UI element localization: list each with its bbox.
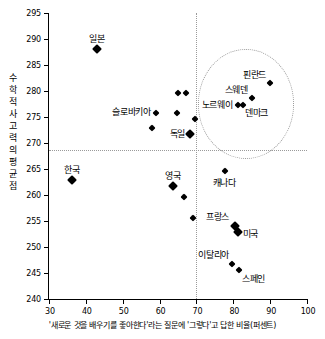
y-axis-tick-label: 285 (26, 62, 41, 70)
point-label: 덴마크 (245, 108, 268, 117)
x-axis-tick: 40 (86, 299, 87, 304)
x-axis-tick: 100 (307, 299, 308, 304)
x-axis-tick: 30 (49, 299, 50, 304)
point-label: 이탈리아 (198, 250, 229, 259)
y-axis-tick-label: 290 (26, 36, 41, 44)
x-axis-tick-label: 70 (193, 308, 203, 316)
y-axis-tick: 275 (44, 117, 49, 118)
x-axis-tick: 80 (233, 299, 234, 304)
point-label: 노르웨이 (202, 100, 233, 109)
x-axis-tick: 50 (123, 299, 124, 304)
y-axis-tick-label: 275 (26, 114, 41, 122)
x-axis-caption: '새로운 것을 배우기를 좋아한다'라는 질문에 '그렇다'고 답한 비율(퍼센… (0, 321, 325, 331)
point-label: 핀란드 (243, 71, 266, 80)
point-label: 한국 (64, 165, 79, 174)
point-label: 독일 (170, 129, 185, 138)
y-axis-title-char: 평 (6, 156, 20, 168)
y-axis-tick: 245 (44, 273, 49, 274)
y-axis-tick-label: 240 (26, 296, 41, 304)
plot-area: 2402452502552602652702752802852902953040… (48, 13, 307, 300)
y-axis-title-char: 적 (6, 96, 20, 108)
y-axis-title-char: 점 (6, 180, 20, 192)
x-axis-tick: 60 (160, 299, 161, 304)
data-point-스페인[interactable] (235, 267, 242, 274)
y-axis-title: 수학적사고력의평균점 (6, 72, 20, 192)
data-point-슬로바키아[interactable] (152, 110, 159, 117)
data-point[interactable] (183, 90, 190, 97)
y-axis-tick: 295 (44, 13, 49, 14)
x-axis-tick-label: 60 (156, 308, 166, 316)
x-axis-tick-label: 100 (301, 308, 316, 316)
y-axis-tick-label: 270 (26, 140, 41, 148)
point-label: 영국 (165, 171, 180, 180)
y-axis-title-char: 고 (6, 120, 20, 132)
point-label: 슬로바키아 (112, 108, 151, 117)
point-label: 스웨덴 (225, 86, 248, 95)
x-axis-tick: 70 (196, 299, 197, 304)
point-label: 캐나다 (213, 179, 236, 188)
data-point[interactable] (174, 90, 181, 97)
x-axis-tick-label: 80 (229, 308, 239, 316)
scatter-chart: 수학적사고력의평균점 24024525025526026527027528028… (0, 0, 325, 339)
y-axis-tick-label: 255 (26, 218, 41, 226)
y-axis-tick: 285 (44, 65, 49, 66)
data-point[interactable] (180, 194, 187, 201)
y-axis-tick-label: 250 (26, 244, 41, 252)
y-axis-tick: 260 (44, 195, 49, 196)
x-axis-tick: 90 (270, 299, 271, 304)
x-axis-tick-label: 50 (119, 308, 129, 316)
data-point-일본[interactable] (92, 44, 102, 54)
point-label: 일본 (89, 35, 104, 44)
y-axis-tick: 250 (44, 247, 49, 248)
data-point-이탈리아[interactable] (229, 260, 236, 267)
y-axis-title-char: 의 (6, 144, 20, 156)
y-axis-tick-label: 260 (26, 192, 41, 200)
y-axis-tick: 280 (44, 91, 49, 92)
y-axis-title-char: 수 (6, 72, 20, 84)
point-label: 스페인 (242, 275, 265, 284)
y-axis-tick: 270 (44, 143, 49, 144)
y-axis-tick-label: 280 (26, 88, 41, 96)
data-point-영국[interactable] (168, 181, 178, 191)
x-axis-tick-label: 30 (45, 308, 55, 316)
point-label: 미국 (243, 229, 258, 238)
y-axis-title-char: 사 (6, 108, 20, 120)
x-axis-tick-label: 40 (82, 308, 92, 316)
y-axis-title-char: 력 (6, 132, 20, 144)
data-point[interactable] (189, 214, 196, 221)
data-point[interactable] (174, 110, 181, 117)
y-axis-tick-label: 265 (26, 166, 41, 174)
x-axis-tick-label: 90 (266, 308, 276, 316)
data-point-한국[interactable] (67, 175, 77, 185)
data-point-캐나다[interactable] (222, 168, 229, 175)
reference-line-vertical (196, 13, 197, 299)
y-axis-tick: 255 (44, 221, 49, 222)
y-axis-tick: 265 (44, 169, 49, 170)
y-axis-tick: 290 (44, 39, 49, 40)
point-label: 프랑스 (206, 213, 229, 222)
data-point[interactable] (149, 125, 156, 132)
y-axis-title-char: 균 (6, 168, 20, 180)
y-axis-title-char: 학 (6, 84, 20, 96)
y-axis-tick-label: 295 (26, 10, 41, 18)
y-axis-tick-label: 245 (26, 270, 41, 278)
